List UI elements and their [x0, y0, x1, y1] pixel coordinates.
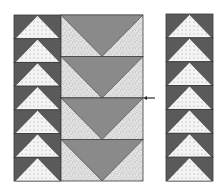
flying-geese-block [14, 86, 61, 110]
large-goose-block [61, 57, 143, 99]
left-flying-geese-strip [14, 15, 61, 181]
flying-geese-block [166, 157, 213, 181]
flying-geese-block [14, 39, 61, 63]
flying-geese-block [14, 110, 61, 134]
flying-geese-block [166, 109, 213, 133]
large-goose-block [61, 15, 143, 57]
middle-large-geese-strip [61, 15, 143, 181]
flying-geese-block [14, 157, 61, 181]
large-goose-block [61, 140, 143, 182]
flying-geese-block [166, 38, 213, 62]
flying-geese-block [166, 62, 213, 86]
right-flying-geese-strip [166, 14, 213, 181]
quilt-diagram [0, 0, 224, 195]
flying-geese-block [14, 15, 61, 39]
flying-geese-block [166, 86, 213, 110]
arrow-left-icon [143, 96, 155, 100]
flying-geese-block [166, 133, 213, 157]
flying-geese-block [14, 134, 61, 158]
flying-geese-block [14, 62, 61, 86]
large-goose-block [61, 98, 143, 140]
flying-geese-block [166, 14, 213, 38]
